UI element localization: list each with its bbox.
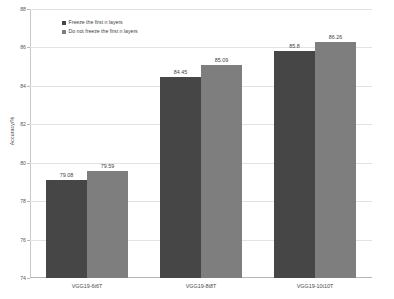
legend-swatch-icon (62, 21, 66, 25)
plot-area: 8886848280787674 79.0879.5984.4585.0985.… (30, 9, 372, 278)
y-tick-label: 78 (20, 198, 26, 204)
bar-value-label: 85.09 (215, 57, 229, 63)
y-tick-mark (27, 86, 30, 87)
y-axis-line (30, 9, 31, 278)
y-tick-mark (27, 163, 30, 164)
y-tick-label: 74 (20, 275, 26, 281)
y-tick-mark (27, 240, 30, 241)
bar-value-label: 84.45 (174, 69, 188, 75)
legend-swatch-icon (62, 30, 66, 34)
y-tick-label: 82 (20, 121, 26, 127)
x-category-label: VGG19-10t10T (297, 283, 334, 289)
bar (315, 42, 356, 278)
legend-item-freeze[interactable]: Freeze the first n layers (62, 19, 138, 27)
legend-item-no-freeze[interactable]: Do not freeze the first n layers (62, 28, 138, 36)
legend-item-label: Freeze the first n layers (69, 20, 123, 25)
y-axis-title: Accuracy/% (9, 101, 15, 161)
legend: Freeze the first n layers Do not freeze … (62, 19, 138, 37)
y-tick-mark (27, 47, 30, 48)
y-tick-label: 76 (20, 237, 26, 243)
x-category-label: VGG19-6t6T (72, 283, 103, 289)
bar (274, 51, 315, 278)
bar-chart: Accuracy/% 8886848280787674 79.0879.5984… (0, 0, 394, 299)
bar-value-label: 79.08 (60, 172, 74, 178)
x-category-label: VGG19-8t8T (186, 283, 217, 289)
bar (46, 180, 87, 278)
y-tick-label: 86 (20, 44, 26, 50)
bar (201, 65, 242, 278)
bar (160, 77, 201, 278)
y-tick-label: 84 (20, 83, 26, 89)
y-tick-label: 80 (20, 160, 26, 166)
y-tick-mark (27, 201, 30, 202)
bar-value-label: 86.26 (329, 34, 343, 40)
y-tick-mark (27, 124, 30, 125)
legend-item-label: Do not freeze the first n layers (69, 29, 138, 34)
bar-value-label: 79.59 (101, 163, 115, 169)
y-tick-label: 88 (20, 6, 26, 12)
y-tick-mark (27, 9, 30, 10)
y-tick-mark (27, 278, 30, 279)
gridline (30, 9, 372, 10)
bar (87, 171, 128, 278)
bar-value-label: 85.8 (289, 43, 300, 49)
